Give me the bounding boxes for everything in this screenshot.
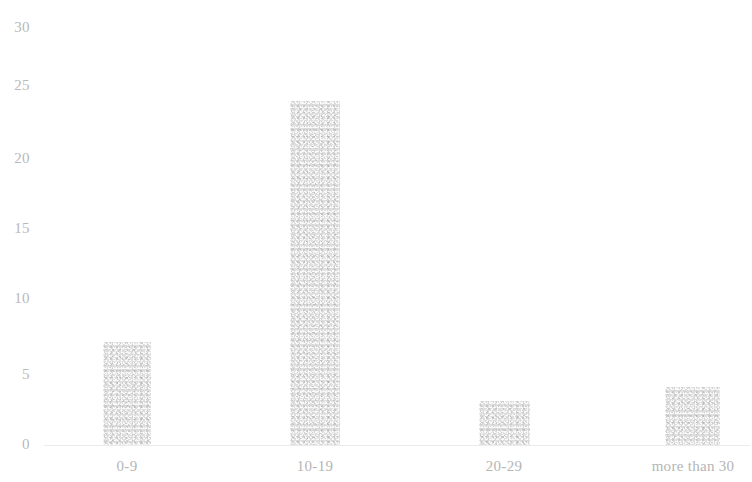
bar-more-than-30 xyxy=(665,387,720,445)
x-axis-baseline xyxy=(44,445,750,446)
bar-20-29 xyxy=(479,401,530,445)
x-axis-label-20-29: 20-29 xyxy=(474,458,534,474)
plot-area xyxy=(0,0,752,482)
bar-0-9 xyxy=(103,342,151,445)
x-axis-label-more-than-30: more than 30 xyxy=(637,458,749,474)
x-axis-label-0-9: 0-9 xyxy=(97,458,157,474)
x-axis-label-10-19: 10-19 xyxy=(285,458,345,474)
bar-10-19 xyxy=(290,101,340,445)
bar-chart-figure: 30 25 20 15 10 5 0 0-9 10-19 20-29 more … xyxy=(0,0,752,482)
